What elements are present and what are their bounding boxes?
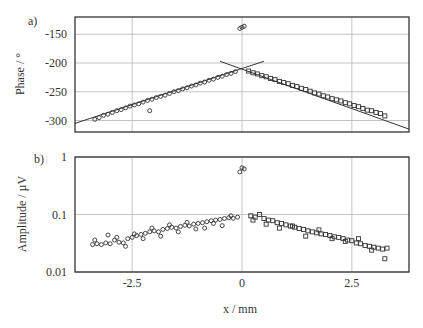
data-point bbox=[148, 109, 152, 113]
data-point bbox=[304, 87, 308, 91]
data-point bbox=[365, 108, 369, 112]
data-point bbox=[339, 99, 343, 103]
data-point bbox=[383, 257, 387, 261]
data-point bbox=[106, 233, 110, 237]
x-tick-label: 0 bbox=[239, 276, 245, 290]
data-point bbox=[361, 106, 365, 110]
fit-line bbox=[75, 61, 264, 123]
data-point bbox=[220, 224, 224, 228]
data-point bbox=[238, 170, 242, 174]
data-point bbox=[324, 232, 328, 236]
data-point bbox=[264, 222, 268, 226]
data-point bbox=[203, 226, 207, 230]
data-point bbox=[222, 217, 226, 221]
data-point bbox=[275, 221, 279, 225]
data-point bbox=[302, 227, 306, 231]
data-point bbox=[108, 242, 112, 246]
data-point bbox=[334, 98, 338, 102]
data-point bbox=[196, 221, 200, 225]
data-point bbox=[385, 246, 389, 250]
data-point bbox=[117, 240, 121, 244]
data-point bbox=[330, 97, 334, 101]
data-point bbox=[205, 220, 209, 224]
data-point bbox=[356, 105, 360, 109]
data-point bbox=[194, 227, 198, 231]
data-point bbox=[192, 222, 196, 226]
data-point bbox=[152, 229, 156, 233]
data-point bbox=[321, 94, 325, 98]
data-point bbox=[383, 114, 387, 118]
data-point bbox=[139, 232, 143, 236]
data-point bbox=[95, 242, 99, 246]
data-point bbox=[97, 116, 101, 120]
data-point bbox=[374, 110, 378, 114]
data-point bbox=[211, 221, 215, 225]
data-point bbox=[326, 95, 330, 99]
data-point bbox=[126, 237, 130, 241]
x-tick-labels: -2.502.5 bbox=[123, 276, 360, 290]
data-point bbox=[115, 235, 119, 239]
y-tick-label: -300 bbox=[45, 114, 67, 128]
amplitude-plot: 10.10.01 bbox=[46, 150, 409, 279]
data-point bbox=[218, 217, 222, 221]
panel-b-label: b) bbox=[34, 152, 44, 166]
data-point bbox=[337, 235, 341, 239]
amplitude-axis-label: Amplitude / µV bbox=[15, 176, 29, 253]
y-tick-label: 0.01 bbox=[46, 265, 67, 279]
data-point bbox=[297, 227, 301, 231]
data-point bbox=[304, 234, 308, 238]
data-point bbox=[266, 218, 270, 222]
data-point bbox=[310, 230, 314, 234]
data-point bbox=[178, 224, 182, 228]
data-point bbox=[319, 232, 323, 236]
data-point bbox=[381, 247, 385, 251]
y-tick-label: 0.1 bbox=[52, 208, 67, 222]
data-point bbox=[378, 112, 382, 116]
data-point bbox=[93, 238, 97, 242]
data-point bbox=[376, 246, 380, 250]
phase-axis-label: Phase / ° bbox=[13, 53, 27, 95]
y-tick-label: -200 bbox=[45, 56, 67, 70]
data-point bbox=[284, 223, 288, 227]
panel-a-label: a) bbox=[28, 14, 37, 28]
x-tick-label: -2.5 bbox=[123, 276, 142, 290]
data-point bbox=[209, 219, 213, 223]
data-point bbox=[306, 229, 310, 233]
data-point bbox=[143, 231, 147, 235]
data-point bbox=[356, 237, 360, 241]
data-point bbox=[150, 226, 154, 230]
data-point bbox=[277, 226, 281, 230]
data-point bbox=[141, 237, 145, 241]
x-axis-label: x / mm bbox=[223, 302, 258, 316]
y-tick-label: -250 bbox=[45, 85, 67, 99]
data-point bbox=[308, 89, 312, 93]
data-point bbox=[91, 243, 95, 247]
data-point bbox=[176, 230, 180, 234]
phase-plot: -150-200-250-300 bbox=[45, 17, 409, 132]
data-point bbox=[262, 217, 266, 221]
y-tick-label: -150 bbox=[45, 27, 67, 41]
figure: a) b) Phase / ° Amplitude / µV -150-200-… bbox=[0, 0, 423, 328]
data-point bbox=[104, 241, 108, 245]
x-tick-label: 2.5 bbox=[344, 276, 359, 290]
data-point bbox=[359, 242, 363, 246]
data-point bbox=[280, 221, 284, 225]
data-point bbox=[113, 238, 117, 242]
data-point bbox=[124, 244, 128, 248]
data-point bbox=[348, 102, 352, 106]
data-point bbox=[354, 241, 358, 245]
data-point bbox=[231, 216, 235, 220]
data-point bbox=[200, 221, 204, 225]
data-point bbox=[271, 219, 275, 223]
data-point bbox=[343, 101, 347, 105]
data-point bbox=[363, 243, 367, 247]
data-point bbox=[370, 109, 374, 113]
data-point bbox=[352, 104, 356, 108]
data-point bbox=[161, 227, 165, 231]
data-point bbox=[159, 234, 163, 238]
y-tick-label: 1 bbox=[61, 150, 67, 164]
data-point bbox=[185, 220, 189, 224]
data-point bbox=[157, 230, 161, 234]
data-point bbox=[236, 215, 240, 219]
data-point bbox=[99, 243, 103, 247]
